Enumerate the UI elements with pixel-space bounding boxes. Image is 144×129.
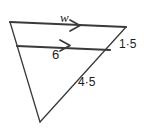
mid-segment-arrow-icon: [60, 40, 70, 51]
label-mid-segment-6: 6: [52, 48, 59, 61]
label-upper-right-side: 1·5: [119, 38, 136, 50]
triangle-left-side: [10, 22, 40, 122]
geometry-figure: w 6 1·5 4·5: [0, 0, 144, 129]
label-top-side-w: w: [60, 11, 69, 24]
label-lower-right-side: 4·5: [78, 76, 95, 88]
triangle-diagram: [0, 0, 144, 129]
